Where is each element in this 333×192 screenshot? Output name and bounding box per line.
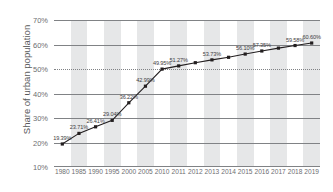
x-tick-label-1985: 1985 <box>72 168 87 175</box>
data-point-labels: 19.39%23.71%26.41%29.04%36.22%42.99%49.9… <box>54 20 320 167</box>
x-tick-label-1995: 1995 <box>105 168 120 175</box>
x-tick-label-2012: 2012 <box>188 168 203 175</box>
x-tick-label-2011: 2011 <box>172 168 186 175</box>
data-label-2005: 42.99% <box>136 77 154 83</box>
data-label-2000: 36.22% <box>120 94 138 100</box>
y-tick-label-70: 70% <box>33 16 48 25</box>
data-label-2010: 49.95% <box>153 60 171 66</box>
x-tick-label-1990: 1990 <box>88 168 103 175</box>
x-tick-label-2010: 2010 <box>155 168 170 175</box>
x-tick-label-2013: 2013 <box>205 168 220 175</box>
x-tick-label-2000: 2000 <box>121 168 136 175</box>
data-label-1995: 29.04% <box>103 111 121 117</box>
x-tick-label-2014: 2014 <box>221 168 236 175</box>
data-label-2011: 51.27% <box>170 57 188 63</box>
data-label-2016: 57.35% <box>253 42 271 48</box>
urbanization-line-chart: Share of urban population 10%20%30%40%50… <box>0 0 333 192</box>
data-label-1980: 19.39% <box>53 135 71 141</box>
data-label-2013: 53.73% <box>203 51 221 57</box>
x-tick-label-2016: 2016 <box>254 168 269 175</box>
x-tick-label-2015: 2015 <box>238 168 253 175</box>
plot-area: 19.39%23.71%26.41%29.04%36.22%42.99%49.9… <box>54 20 320 167</box>
y-tick-label-20: 20% <box>33 138 48 147</box>
data-label-1990: 26.41% <box>86 118 104 124</box>
x-tick-label-2005: 2005 <box>138 168 153 175</box>
data-label-2019: 60.60% <box>303 34 321 40</box>
x-tick-label-2019: 2019 <box>304 168 319 175</box>
x-tick-label-2017: 2017 <box>271 168 286 175</box>
y-tick-label-40: 40% <box>33 89 48 98</box>
x-tick-label-2018: 2018 <box>288 168 303 175</box>
x-tick-label-1980: 1980 <box>55 168 70 175</box>
y-tick-label-30: 30% <box>33 114 48 123</box>
data-label-2015: 56.10% <box>236 45 254 51</box>
x-axis-tick-labels: 1980198519901995200020052010201120122013… <box>54 168 320 182</box>
data-label-2018: 59.58% <box>286 37 304 43</box>
y-tick-label-60: 60% <box>33 40 48 49</box>
y-tick-label-10: 10% <box>33 163 48 172</box>
y-axis-tick-labels: 10%20%30%40%50%60%70% <box>0 20 52 167</box>
data-label-1985: 23.71% <box>70 124 88 130</box>
y-tick-label-50: 50% <box>33 65 48 74</box>
